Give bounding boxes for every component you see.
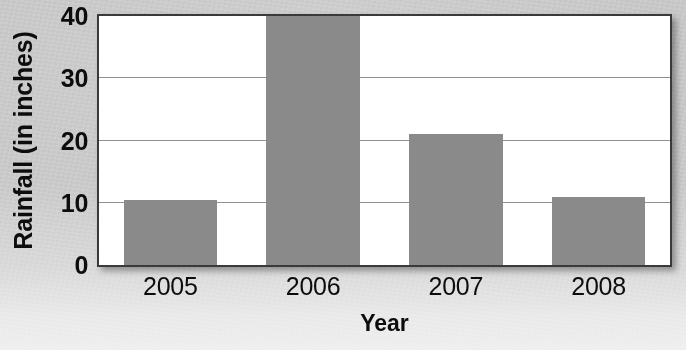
y-tick-label: 30 xyxy=(61,66,88,91)
x-tick-label: 2006 xyxy=(286,272,341,301)
y-tick-label: 20 xyxy=(61,128,88,153)
x-axis-tick-labels: 2005200620072008 xyxy=(97,272,672,306)
y-tick-label: 0 xyxy=(74,253,88,278)
gridline xyxy=(99,77,670,78)
bar xyxy=(124,200,218,265)
y-tick-label: 40 xyxy=(61,4,88,29)
x-tick-label: 2008 xyxy=(571,272,626,301)
x-axis-title: Year xyxy=(97,310,672,337)
bar xyxy=(266,16,360,265)
bar xyxy=(409,134,503,265)
y-axis-title-label: Rainfall (in inches) xyxy=(9,31,38,249)
y-axis-tick-labels: 010203040 xyxy=(44,0,92,350)
plot-area xyxy=(97,14,672,267)
gridline xyxy=(99,140,670,141)
x-tick-label: 2007 xyxy=(428,272,483,301)
bar xyxy=(552,197,646,265)
scanned-chart-page: Rainfall (in inches) 010203040 200520062… xyxy=(0,0,686,350)
y-axis-title: Rainfall (in inches) xyxy=(0,0,46,280)
x-tick-label: 2005 xyxy=(143,272,198,301)
y-tick-label: 10 xyxy=(61,190,88,215)
